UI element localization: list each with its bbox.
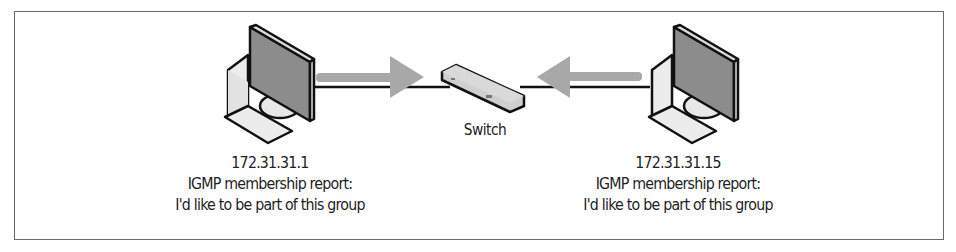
host-right-ip: 172.31.31.15 xyxy=(575,152,781,173)
computer-icon-left xyxy=(225,25,314,143)
arrow-left-icon xyxy=(537,56,642,98)
host-right-message-title: IGMP membership report: xyxy=(575,173,781,194)
host-left-caption: 172.31.31.1 IGMP membership report: I'd … xyxy=(167,152,373,215)
arrow-right-icon xyxy=(316,56,424,98)
host-right-message-body: I'd like to be part of this group xyxy=(575,194,781,215)
switch-icon xyxy=(442,65,524,112)
switch-label: Switch xyxy=(446,120,523,139)
host-left-message-body: I'd like to be part of this group xyxy=(167,194,373,215)
host-left-message-title: IGMP membership report: xyxy=(167,173,373,194)
host-right-caption: 172.31.31.15 IGMP membership report: I'd… xyxy=(575,152,781,215)
host-left-ip: 172.31.31.1 xyxy=(167,152,373,173)
computer-icon-right xyxy=(649,25,738,143)
